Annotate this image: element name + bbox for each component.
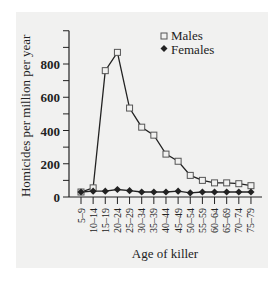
x-tick-label: 15–19	[100, 208, 111, 233]
female-data-point	[114, 186, 121, 193]
male-data-point	[212, 180, 218, 186]
female-data-point	[199, 188, 206, 195]
x-axis-title: Age of killer	[132, 246, 199, 261]
male-data-point	[102, 68, 108, 74]
x-tick-label: 30–34	[136, 208, 147, 233]
female-data-point	[138, 188, 145, 195]
male-data-point	[163, 151, 169, 157]
line-chart: 02004006008005–910–1415–1920–2425–2930–3…	[0, 0, 278, 282]
legend-square-icon	[161, 33, 167, 39]
female-data-point	[235, 188, 242, 195]
male-data-point	[127, 105, 133, 111]
female-data-point	[126, 187, 133, 194]
legend-diamond-icon	[161, 45, 168, 52]
female-data-point	[223, 188, 230, 195]
female-data-point	[162, 188, 169, 195]
x-tick-label: 40–44	[160, 208, 171, 233]
male-data-point	[199, 177, 205, 183]
x-tick-label: 65–69	[221, 208, 232, 233]
x-tick-label: 20–24	[112, 208, 123, 233]
male-data-point	[139, 124, 145, 130]
x-tick-label: 55–59	[197, 208, 208, 233]
female-data-point	[175, 188, 182, 195]
y-tick-label: 400	[41, 124, 61, 139]
male-data-point	[224, 180, 230, 186]
y-tick-label: 800	[41, 57, 61, 72]
x-tick-label: 25–29	[124, 208, 135, 233]
male-data-point	[187, 172, 193, 178]
female-data-point	[102, 188, 109, 195]
male-data-point	[114, 49, 120, 55]
x-tick-label: 70–74	[233, 208, 244, 233]
male-data-point	[248, 183, 254, 189]
y-tick-label: 0	[54, 190, 61, 205]
x-tick-label: 35–39	[148, 208, 159, 233]
legend-females-label: Females	[171, 42, 214, 57]
x-tick-label: 5–9	[76, 208, 87, 223]
male-data-point	[151, 132, 157, 138]
x-tick-label: 75–79	[245, 208, 256, 233]
legend-males-label: Males	[171, 28, 203, 43]
female-data-point	[150, 188, 157, 195]
female-data-point	[211, 188, 218, 195]
male-data-point	[236, 181, 242, 187]
male-data-point	[175, 158, 181, 164]
female-data-point	[187, 189, 194, 196]
x-tick-label: 10–14	[88, 208, 99, 233]
y-axis-title: Homicides per million per year	[18, 34, 33, 197]
x-tick-label: 60–64	[209, 208, 220, 233]
x-tick-label: 50–54	[185, 208, 196, 233]
y-tick-label: 200	[41, 157, 61, 172]
female-data-point	[247, 188, 254, 195]
x-tick-label: 45–49	[173, 208, 184, 233]
y-tick-label: 600	[41, 90, 61, 105]
